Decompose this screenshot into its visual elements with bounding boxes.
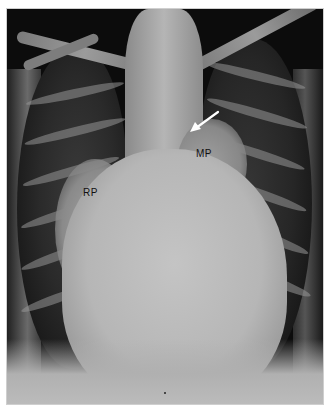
diaphragm bbox=[7, 339, 323, 405]
rp-label: RP bbox=[83, 187, 98, 198]
xray-image: RP MP bbox=[6, 8, 324, 405]
mp-label: MP bbox=[196, 148, 212, 159]
film-speck bbox=[164, 392, 166, 394]
arrow-icon bbox=[187, 109, 221, 135]
